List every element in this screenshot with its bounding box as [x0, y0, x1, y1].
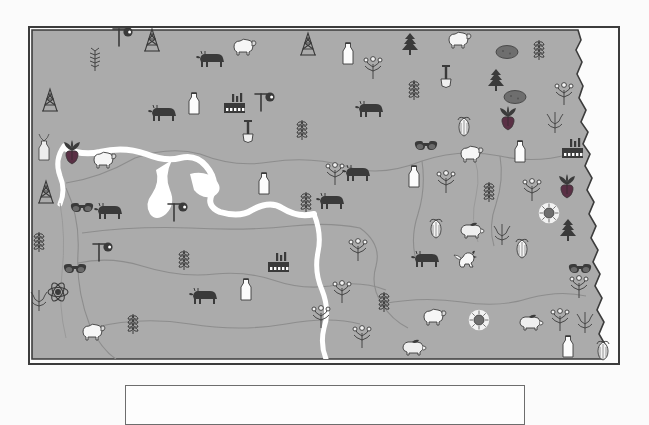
wheat-icon — [128, 314, 138, 334]
wheat-icon — [379, 292, 389, 312]
potato-icon — [504, 91, 526, 104]
north-dakota-map-frame[interactable] — [28, 26, 620, 365]
north-dakota-map-graphic[interactable] — [30, 28, 618, 363]
sunflower-icon — [540, 204, 559, 223]
wheat-icon — [34, 232, 44, 252]
wheat-icon — [484, 182, 494, 202]
map-legend-box[interactable] — [125, 385, 525, 425]
wheat-icon — [409, 80, 419, 100]
wheat-icon — [297, 120, 307, 140]
potato-icon — [496, 46, 518, 59]
wheat-icon — [179, 250, 189, 270]
wheat-icon — [534, 40, 544, 60]
wheat-icon — [301, 192, 311, 212]
sunflower-icon — [470, 311, 489, 330]
